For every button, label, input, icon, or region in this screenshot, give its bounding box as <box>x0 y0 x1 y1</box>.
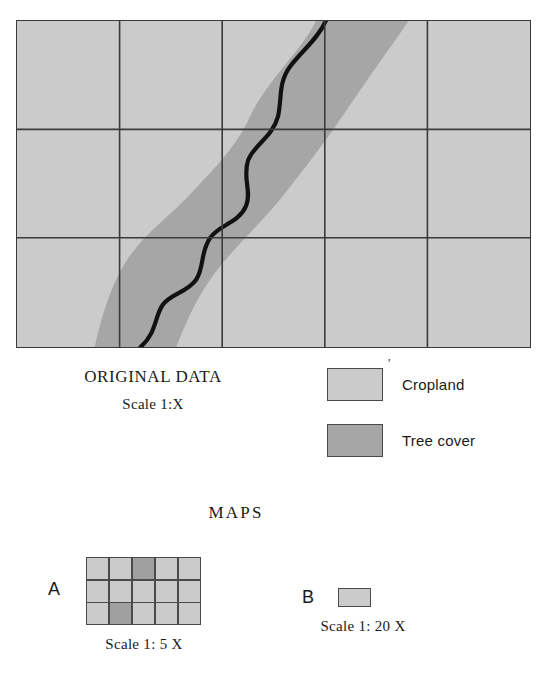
legend: Cropland Tree cover <box>327 366 527 478</box>
map-a-cell-1 <box>87 558 108 579</box>
original-data-map <box>16 20 531 348</box>
original-data-scale: Scale 1:X <box>28 396 278 413</box>
map-a-grid <box>86 557 201 625</box>
map-b-swatch <box>338 588 371 607</box>
map-a-cell-6 <box>87 581 108 602</box>
maps-heading: MAPS <box>0 503 472 523</box>
map-a-cell-2 <box>110 558 131 579</box>
map-a-cell-9 <box>156 581 177 602</box>
map-a-cell-11 <box>87 603 108 624</box>
map-a-cell-3 <box>133 558 154 579</box>
map-a-cell-7 <box>110 581 131 602</box>
map-b-letter: B <box>302 587 315 608</box>
map-a-cell-10 <box>179 581 200 602</box>
map-a-cell-5 <box>179 558 200 579</box>
map-a-scale: Scale 1: 5 X <box>56 636 232 653</box>
map-b-group: B Scale 1: 20 X <box>300 585 480 665</box>
map-a-cell-14 <box>156 603 177 624</box>
map-b-scale: Scale 1: 20 X <box>278 618 448 635</box>
tree-cover-swatch <box>327 424 383 457</box>
map-a-cell-15 <box>179 603 200 624</box>
legend-label-tree-cover: Tree cover <box>402 432 475 449</box>
legend-item-tree-cover: Tree cover <box>327 422 527 458</box>
legend-label-cropland: Cropland <box>402 376 464 393</box>
map-a-cell-4 <box>156 558 177 579</box>
map-a-letter: A <box>48 579 61 600</box>
cropland-swatch <box>327 368 383 401</box>
map-a-cell-12 <box>110 603 131 624</box>
map-a-cell-8 <box>133 581 154 602</box>
original-map-svg <box>17 21 530 347</box>
map-a-cell-13 <box>133 603 154 624</box>
original-data-title: ORIGINAL DATA <box>28 367 278 387</box>
legend-item-cropland: Cropland <box>327 366 527 402</box>
original-data-caption: ORIGINAL DATA Scale 1:X <box>28 367 278 413</box>
map-a-group: A Scale 1: 5 X <box>40 552 230 662</box>
